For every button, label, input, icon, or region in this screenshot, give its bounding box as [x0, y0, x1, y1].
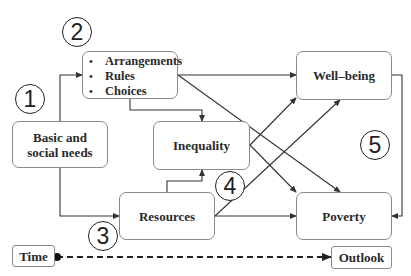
poverty-box: Poverty	[296, 192, 392, 240]
wellbeing-box: Well–being	[296, 51, 392, 100]
arrangements-rules-choices-box: Arrangements Rules Choices	[82, 51, 178, 99]
outlook-box: Outlook	[331, 246, 392, 269]
list-item-arrangements: Arrangements	[87, 54, 173, 69]
marker-5: 5	[360, 130, 390, 160]
edge-basic-to-arrangements	[60, 75, 82, 121]
marker-2: 2	[62, 17, 92, 47]
marker-1: 1	[15, 84, 45, 114]
marker-4: 4	[215, 171, 245, 201]
list-item-rules: Rules	[87, 69, 173, 84]
outlook-label: Outlook	[339, 250, 385, 265]
time-label: Time	[19, 249, 48, 264]
basic-needs-label-line1: Basic and	[33, 130, 87, 145]
poverty-label: Poverty	[322, 209, 365, 224]
basic-social-needs-box: Basic and social needs	[12, 121, 108, 168]
edge-inequality-to-poverty	[250, 145, 296, 192]
resources-box: Resources	[119, 192, 215, 240]
basic-needs-label-line2: social needs	[27, 145, 92, 160]
time-box: Time	[12, 245, 55, 267]
wellbeing-label: Well–being	[313, 68, 375, 83]
edge-arrangements-to-inequality	[130, 99, 202, 121]
inequality-label: Inequality	[173, 138, 230, 153]
edge-inequality-to-wellbeing	[250, 98, 296, 145]
edge-wellbeing-poverty-feedback	[392, 75, 402, 216]
inequality-box: Inequality	[153, 121, 250, 170]
resources-label: Resources	[139, 209, 195, 224]
marker-3: 3	[88, 221, 118, 251]
edge-resources-to-inequality	[167, 170, 202, 192]
edge-basic-to-resources	[60, 168, 119, 216]
list-item-choices: Choices	[87, 84, 173, 99]
